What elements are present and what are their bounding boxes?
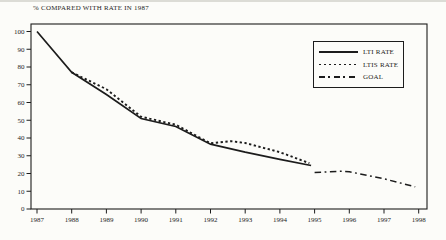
x-tick-label: 1995 <box>308 216 323 224</box>
x-tick-label: 1988 <box>65 216 80 224</box>
x-tick-label: 1992 <box>204 216 219 224</box>
x-tick-label: 1987 <box>30 216 45 224</box>
y-tick-label: 30 <box>18 152 26 160</box>
chart-legend: LTI RATE LTIS RATE GOAL <box>313 41 404 88</box>
dashdot-line-swatch <box>319 76 358 78</box>
x-tick-label: 1990 <box>134 216 149 224</box>
legend-label: LTIS RATE <box>363 61 398 69</box>
x-tick-label: 1993 <box>238 216 253 224</box>
y-tick-label: 60 <box>18 99 26 107</box>
x-tick-label: 1991 <box>169 216 184 224</box>
solid-line-swatch <box>319 51 358 53</box>
y-tick-label: 10 <box>18 188 26 196</box>
x-tick-label: 1996 <box>342 216 357 224</box>
series-line-goal <box>315 171 416 187</box>
y-tick-label: 90 <box>18 46 26 54</box>
y-tick-label: 70 <box>18 81 26 89</box>
dotted-line-swatch <box>319 64 358 66</box>
y-tick-label: 40 <box>18 134 26 142</box>
y-tick-label: 100 <box>14 28 25 36</box>
legend-label: LTI RATE <box>363 48 394 56</box>
legend-item-ltis-rate: LTIS RATE <box>319 61 401 69</box>
x-tick-label: 1994 <box>273 216 288 224</box>
y-tick-label: 80 <box>18 63 26 71</box>
legend-item-lti-rate: LTI RATE <box>319 48 401 56</box>
x-tick-label: 1989 <box>99 216 114 224</box>
y-tick-label: 0 <box>21 205 25 213</box>
legend-item-goal: GOAL <box>319 73 401 81</box>
plot-area: 0102030405060708090100198719881989199019… <box>0 0 446 240</box>
series-line-lti-rate <box>37 32 311 166</box>
y-tick-label: 50 <box>18 117 26 125</box>
chart-figure: % COMPARED WITH RATE IN 1987 01020304050… <box>0 0 446 240</box>
x-tick-label: 1998 <box>412 216 427 224</box>
legend-label: GOAL <box>363 73 383 81</box>
y-tick-label: 20 <box>18 170 26 178</box>
series-line-ltis-rate <box>72 72 310 163</box>
x-tick-label: 1997 <box>377 216 392 224</box>
